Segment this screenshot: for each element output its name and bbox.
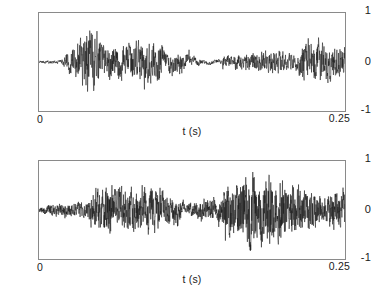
x-axis-title-top: t (s) xyxy=(38,126,346,137)
plot-area-top xyxy=(38,12,346,112)
x-axis-tick-label-bottom-end: 0.25 xyxy=(312,261,350,272)
waveform-trace-top xyxy=(39,13,345,111)
waveform-panel-top: 1 0 -1 0 0.25 t (s) xyxy=(0,0,371,148)
waveform-figure: 1 0 -1 0 0.25 t (s) 1 0 -1 0 0.25 t (s) xyxy=(0,0,371,297)
waveform-panel-bottom: 1 0 -1 0 0.25 t (s) xyxy=(0,148,371,297)
x-axis-tick-label-top-end: 0.25 xyxy=(312,113,350,124)
waveform-trace-bottom xyxy=(39,161,345,259)
x-axis-title-bottom: t (s) xyxy=(38,274,346,285)
x-axis-tick-label-bottom-start: 0 xyxy=(37,262,43,273)
x-axis-tick-label-top-start: 0 xyxy=(37,114,43,125)
plot-area-bottom xyxy=(38,160,346,260)
